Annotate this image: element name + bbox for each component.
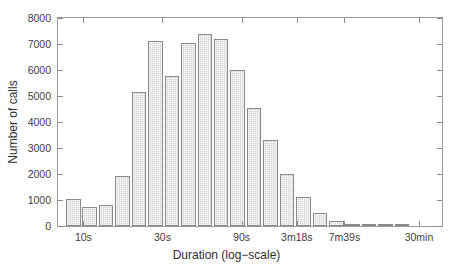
x-tick-mark-top <box>162 18 163 23</box>
y-tick-mark <box>58 18 63 19</box>
y-axis-title: Number of calls <box>6 80 20 163</box>
histogram-bar <box>263 140 278 226</box>
histogram-bar <box>99 205 114 226</box>
y-tick-mark-right <box>437 44 442 45</box>
bar-series <box>58 18 442 226</box>
histogram-bar <box>345 224 360 226</box>
histogram-bar <box>378 224 393 226</box>
y-tick-mark-right <box>437 148 442 149</box>
y-tick-label: 2000 <box>28 168 51 180</box>
y-tick-mark <box>58 226 63 227</box>
histogram-bar <box>247 108 262 226</box>
x-tick-label: 90s <box>233 231 250 243</box>
y-tick-label: 0 <box>45 220 51 232</box>
y-tick-label: 3000 <box>28 142 51 154</box>
histogram-bar <box>181 43 196 226</box>
y-tick-label: 8000 <box>28 12 51 24</box>
histogram-bar <box>66 199 81 226</box>
x-tick-mark-top <box>419 18 420 23</box>
y-tick-label: 6000 <box>28 64 51 76</box>
x-tick-label: 30s <box>154 231 171 243</box>
histogram-bar <box>362 224 377 226</box>
x-axis-title-text: Duration (log−scale) <box>173 248 281 262</box>
x-axis-title: Duration (log−scale) <box>0 248 467 262</box>
x-tick-mark <box>419 221 420 226</box>
plot-area: 010002000300040005000600070008000 10s30s… <box>57 17 443 227</box>
y-tick-mark-right <box>437 70 442 71</box>
histogram-bar <box>230 70 245 226</box>
x-tick-mark-top <box>242 18 243 23</box>
y-tick-label: 1000 <box>28 194 51 206</box>
histogram-bar <box>115 176 130 226</box>
figure-container: Number of calls 010002000300040005000600… <box>0 0 467 268</box>
histogram-bar <box>165 76 180 226</box>
x-tick-mark <box>162 221 163 226</box>
y-tick-mark <box>58 122 63 123</box>
y-tick-mark <box>58 70 63 71</box>
y-tick-mark <box>58 44 63 45</box>
y-tick-mark <box>58 174 63 175</box>
x-tick-label: 10s <box>75 231 92 243</box>
histogram-bar <box>313 213 328 226</box>
y-tick-mark-right <box>437 18 442 19</box>
y-tick-label: 7000 <box>28 38 51 50</box>
y-tick-mark-right <box>437 122 442 123</box>
x-tick-mark-top <box>344 18 345 23</box>
histogram-bar <box>296 197 311 226</box>
x-tick-label: 3m18s <box>281 231 313 243</box>
x-tick-label: 30min <box>405 231 434 243</box>
y-tick-mark-right <box>437 96 442 97</box>
histogram-bar <box>280 174 295 226</box>
histogram-bar <box>395 224 410 226</box>
histogram-bar <box>148 41 163 226</box>
x-tick-mark-top <box>297 18 298 23</box>
y-tick-mark-right <box>437 226 442 227</box>
histogram-bar <box>214 39 229 226</box>
y-tick-mark-right <box>437 174 442 175</box>
x-tick-mark <box>83 221 84 226</box>
x-tick-mark <box>297 221 298 226</box>
x-tick-mark <box>242 221 243 226</box>
y-tick-label: 4000 <box>28 116 51 128</box>
y-tick-mark <box>58 148 63 149</box>
histogram-bar <box>132 92 147 226</box>
x-tick-mark <box>344 221 345 226</box>
y-tick-label: 5000 <box>28 90 51 102</box>
x-tick-label: 7m39s <box>329 231 361 243</box>
y-tick-mark <box>58 96 63 97</box>
histogram-bar <box>329 221 344 226</box>
histogram-bar <box>82 207 97 226</box>
histogram-bar <box>198 34 213 226</box>
x-tick-mark-top <box>83 18 84 23</box>
y-tick-mark <box>58 200 63 201</box>
y-tick-mark-right <box>437 200 442 201</box>
